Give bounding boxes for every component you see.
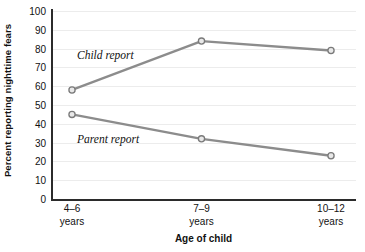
y-axis-tick-50: 50 — [16, 100, 46, 111]
x-axis-tick-1: 7–9years — [189, 203, 213, 228]
x-axis-tick-0: 4–6years — [60, 203, 84, 228]
x-axis-title: Age of child — [51, 233, 356, 244]
x-tick-range: 4–6 — [64, 203, 81, 214]
y-axis-tick-90: 90 — [16, 24, 46, 35]
series-label-child-report: Child report — [77, 49, 134, 61]
data-point-parent-report-1 — [198, 136, 204, 142]
data-point-child-report-0 — [69, 87, 75, 93]
series-label-parent-report: Parent report — [77, 133, 139, 145]
x-tick-range: 7–9 — [193, 203, 210, 214]
y-axis-tick-80: 80 — [16, 43, 46, 54]
y-axis-title: Percent reporting nighttime fears — [0, 0, 16, 200]
y-axis-tick-10: 10 — [16, 175, 46, 186]
x-tick-unit: years — [189, 216, 213, 229]
x-axis-tick-labels: 4–6years7–9years10–12years — [51, 203, 356, 233]
y-axis-title-text: Percent reporting nighttime fears — [3, 23, 14, 176]
data-point-parent-report-0 — [69, 111, 75, 117]
y-axis-tick-labels: 0102030405060708090100 — [16, 0, 50, 205]
y-axis-tick-100: 100 — [16, 6, 46, 17]
data-point-parent-report-2 — [328, 153, 334, 159]
x-tick-unit: years — [317, 216, 345, 229]
series-lines-layer — [51, 11, 356, 199]
y-axis-tick-0: 0 — [16, 194, 46, 205]
x-tick-range: 10–12 — [317, 203, 345, 214]
plot-area: Child report Parent report — [51, 11, 356, 199]
y-axis-tick-30: 30 — [16, 137, 46, 148]
y-axis-tick-20: 20 — [16, 156, 46, 167]
x-tick-unit: years — [60, 216, 84, 229]
x-axis-line — [51, 199, 356, 201]
data-point-child-report-2 — [328, 47, 334, 53]
data-point-child-report-1 — [198, 38, 204, 44]
y-axis-tick-60: 60 — [16, 81, 46, 92]
line-chart-figure: Percent reporting nighttime fears 010203… — [0, 0, 365, 252]
y-axis-tick-40: 40 — [16, 118, 46, 129]
x-axis-tick-2: 10–12years — [317, 203, 345, 228]
y-axis-tick-70: 70 — [16, 62, 46, 73]
